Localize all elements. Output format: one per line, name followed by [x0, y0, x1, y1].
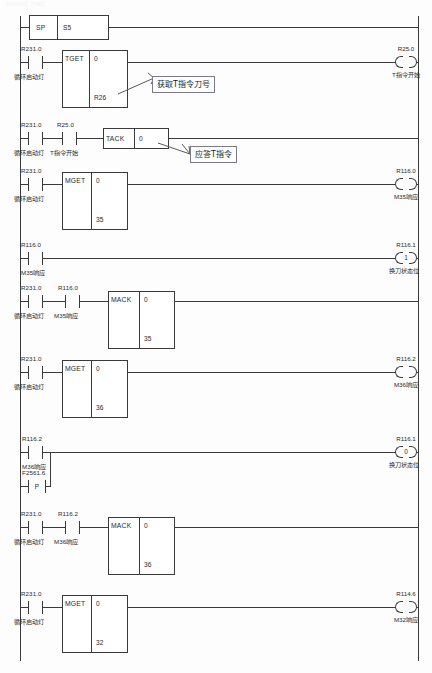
contact-address: R116.2 — [22, 435, 42, 442]
contact-no[interactable] — [28, 56, 43, 69]
contact-pulse[interactable]: P — [28, 480, 46, 493]
branch-vertical-left — [20, 452, 21, 486]
contact-description: T指令开始 — [50, 148, 78, 157]
block-param1-label: 0 — [96, 365, 100, 372]
wire — [43, 607, 62, 608]
block-name-label: MACK — [111, 296, 131, 303]
contact-description: 循环启动灯 — [14, 617, 45, 626]
contact-bar-left — [28, 366, 29, 379]
wire — [169, 138, 419, 139]
coil-description: T指令开始 — [378, 70, 432, 79]
wire — [417, 62, 419, 63]
coil-left-arc — [395, 601, 403, 613]
wire — [20, 607, 28, 608]
contact-no[interactable] — [28, 295, 43, 308]
block-param2-label: 36 — [96, 404, 103, 411]
function-block-mget[interactable]: MGET 0 32 — [62, 595, 128, 653]
contact-description: 循环启动灯 — [14, 311, 45, 320]
wire — [43, 372, 62, 373]
contact-no[interactable] — [65, 521, 80, 534]
wire — [417, 372, 419, 373]
coil-address: R114.6 — [378, 590, 432, 597]
block-divider — [139, 518, 140, 574]
left-power-rail — [20, 16, 21, 661]
contact-no[interactable] — [28, 366, 43, 379]
coil-right-arc — [409, 601, 417, 613]
pulse-letter: P — [28, 482, 46, 491]
contact-bar-left — [28, 178, 29, 191]
function-block-mack[interactable]: MACK 0 36 — [108, 517, 175, 575]
output-coil[interactable] — [395, 366, 417, 378]
contact-bar-left — [28, 56, 29, 69]
contact-address: R116.0 — [58, 284, 78, 291]
block-param1-label: 0 — [139, 135, 143, 142]
block-divider — [89, 51, 90, 107]
contact-no[interactable] — [28, 446, 43, 459]
block-param-label: S5 — [63, 24, 71, 31]
wire — [43, 301, 65, 302]
block-name-label: SP — [36, 24, 45, 31]
contact-address: R116.2 — [58, 510, 78, 517]
wire — [175, 527, 419, 528]
contact-bar-left — [28, 295, 29, 308]
contact-no[interactable] — [62, 132, 77, 145]
coil-right-arc — [409, 178, 417, 190]
wire — [20, 184, 28, 185]
contact-no[interactable] — [28, 178, 43, 191]
coil-description: M35响应 — [378, 192, 432, 201]
block-param2-label: 36 — [144, 561, 151, 568]
wire — [128, 62, 395, 63]
wire — [417, 607, 419, 608]
function-block-mget[interactable]: MGET 0 35 — [62, 172, 128, 230]
function-block-mack[interactable]: MACK 0 35 — [108, 291, 175, 349]
output-coil[interactable] — [395, 178, 417, 190]
wire — [175, 301, 419, 302]
coil-description: M32响应 — [378, 615, 432, 624]
coil-address: R116.2 — [378, 355, 432, 362]
wire — [43, 258, 395, 259]
coil-address: R116.0 — [378, 167, 432, 174]
block-divider — [134, 129, 135, 148]
contact-bar-left — [28, 132, 29, 145]
wire — [20, 62, 28, 63]
block-name-label: TGET — [65, 55, 84, 62]
block-param2-label: 35 — [96, 216, 103, 223]
function-block-sp[interactable]: SP S5 — [29, 15, 109, 40]
contact-no[interactable] — [28, 132, 43, 145]
wire — [20, 527, 28, 528]
output-coil[interactable] — [395, 56, 417, 68]
block-param1-label: 0 — [96, 177, 100, 184]
wire — [20, 372, 28, 373]
contact-address: F2561.6 — [22, 469, 45, 476]
contact-address: R231.0 — [21, 121, 42, 128]
contact-no[interactable] — [65, 295, 80, 308]
contact-bar-left — [28, 446, 29, 459]
wire — [20, 452, 28, 453]
contact-no[interactable] — [28, 252, 43, 265]
coil-description: M36响应 — [378, 380, 432, 389]
wire — [20, 486, 28, 487]
wire — [109, 27, 418, 28]
contact-no[interactable] — [28, 601, 43, 614]
wire — [128, 372, 395, 373]
output-coil-reset[interactable]: 0 — [395, 446, 417, 458]
contact-no[interactable] — [28, 521, 43, 534]
output-coil[interactable] — [395, 601, 417, 613]
contact-description: M35响应 — [21, 268, 46, 277]
callout-leader-line — [158, 142, 194, 158]
contact-address: R116.0 — [21, 241, 41, 248]
output-coil-set[interactable]: 1 — [395, 252, 417, 264]
wire — [80, 527, 108, 528]
wire — [20, 301, 28, 302]
branch-vertical-right — [50, 452, 51, 487]
block-param1-label: 0 — [94, 55, 98, 62]
function-block-mget[interactable]: MGET 0 36 — [62, 360, 128, 418]
contact-description: 循环启动灯 — [14, 382, 45, 391]
block-name-label: MGET — [65, 600, 85, 607]
block-name-label: MGET — [65, 177, 85, 184]
block-divider — [57, 16, 58, 39]
block-param2-label: 35 — [144, 335, 151, 342]
contact-description: 循环启动灯 — [14, 194, 45, 203]
wire — [128, 607, 395, 608]
block-param1-label: 0 — [96, 600, 100, 607]
